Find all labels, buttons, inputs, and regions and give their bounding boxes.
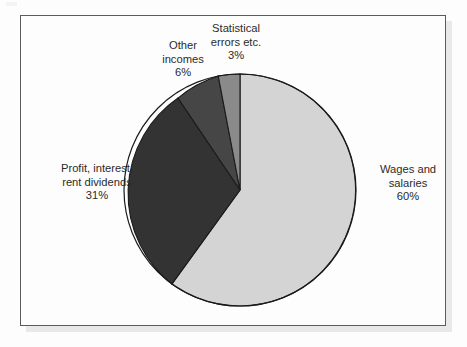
pie-label-line-2: salaries: [362, 177, 454, 191]
pie-label-value: 31%: [30, 189, 164, 203]
figure-root: Statistical errors etc. 3% Other incomes…: [0, 0, 467, 347]
pie-label-value: 60%: [362, 190, 454, 204]
pie-chart: Statistical errors etc. 3% Other incomes…: [0, 0, 467, 347]
pie-label-profit-interest-rent-dividends: Profit, interest, rent dividends 31%: [30, 162, 164, 203]
pie-label-line-1: Wages and: [362, 163, 454, 177]
pie-label-line-2: incomes: [143, 53, 223, 67]
pie-label-line-2: rent dividends: [30, 176, 164, 190]
pie-label-line-1: Other: [143, 39, 223, 53]
pie-label-value: 6%: [143, 66, 223, 80]
pie-label-line-1: Statistical: [182, 22, 290, 36]
pie-label-line-1: Profit, interest,: [30, 162, 164, 176]
pie-label-other-incomes: Other incomes 6%: [143, 39, 223, 80]
pie-label-wages-and-salaries: Wages and salaries 60%: [362, 163, 454, 204]
